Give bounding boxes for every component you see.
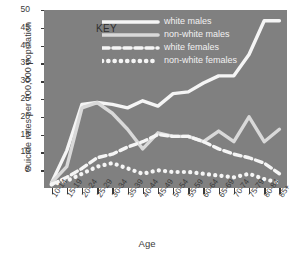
y-axis-tick-labels: 5101520253035404550	[10, 0, 30, 200]
y-tick-label: 10	[14, 146, 30, 156]
figure-suicide-rates-chart: Suicide rates per 100,000 population 510…	[0, 0, 294, 262]
y-tick-label: 5	[14, 164, 30, 174]
y-tick-label: 15	[14, 129, 30, 139]
legend-label: non-white females	[164, 55, 237, 65]
legend-label: white males	[164, 16, 212, 26]
y-tick-label: 25	[14, 93, 30, 103]
y-tick-label: 50	[14, 4, 30, 14]
x-axis-title: Age	[0, 238, 294, 249]
y-tick-label: 35	[14, 57, 30, 67]
x-axis-tick-labels: 10-1415-1920-2425-2930-3435-3940-4445-49…	[44, 194, 294, 240]
y-tick-label: 40	[14, 40, 30, 50]
y-tick-label: 45	[14, 22, 30, 32]
plot-area: KEY white malesnon-white maleswhite fema…	[44, 10, 287, 188]
y-tick-label: 20	[14, 111, 30, 121]
legend-label: white females	[164, 42, 219, 52]
legend-label: non-white males	[164, 29, 230, 39]
y-tick-label: 30	[14, 75, 30, 85]
